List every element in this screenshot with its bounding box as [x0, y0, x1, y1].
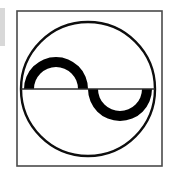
scan-artifact-smudge	[0, 8, 5, 46]
figure-container: Yin-yang style geometric figure Square f…	[0, 0, 177, 178]
geometric-figure-svg	[0, 0, 177, 178]
